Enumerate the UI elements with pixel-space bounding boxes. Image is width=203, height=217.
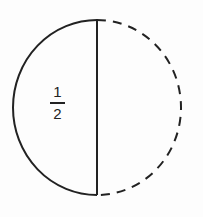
half-circle-diagram — [0, 0, 203, 217]
fraction-label: 1 2 — [49, 84, 66, 122]
dashed-right-arc — [97, 20, 181, 195]
fraction-bar — [50, 102, 65, 104]
fraction-denominator: 2 — [49, 106, 66, 122]
fraction-numerator: 1 — [49, 84, 66, 100]
